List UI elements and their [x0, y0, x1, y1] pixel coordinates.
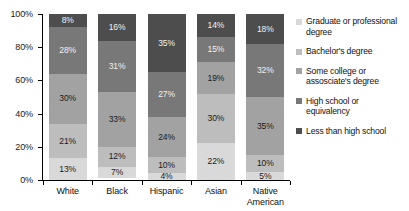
bar-segment-value: 10% — [257, 159, 274, 168]
y-tick-label: 60% — [15, 75, 33, 85]
y-tick-mark — [38, 14, 43, 15]
bar-segment-value: 32% — [257, 66, 274, 75]
x-tick-mark — [43, 181, 44, 185]
bar-segment-value: 12% — [109, 152, 126, 161]
plot-area: 0%20%40%60%80%100% 8%28%30%21%13%16%31%3… — [0, 0, 292, 211]
legend-swatch-icon — [296, 68, 302, 74]
y-tick-label: 80% — [15, 42, 33, 52]
legend-label: Some college orassosciate's degree — [306, 66, 379, 87]
bar-segment-value: 8% — [62, 16, 74, 25]
bar-segment-value: 10% — [158, 161, 175, 170]
legend-label: Graduate or professionaldegree — [306, 16, 397, 37]
bar-segment[interactable]: 14% — [197, 14, 235, 37]
x-axis-label: Asian — [191, 186, 240, 197]
bar-segment-value: 18% — [257, 25, 274, 34]
y-tick-mark — [38, 80, 43, 81]
bar-group[interactable]: 35%27%24%10%4% — [148, 14, 186, 180]
bar-segment-value: 14% — [208, 21, 225, 30]
bar-segment[interactable]: 13% — [49, 158, 87, 180]
bar-segment-value: 13% — [59, 165, 76, 174]
bar-group[interactable]: 18%32%35%10%5% — [246, 14, 284, 180]
legend-item[interactable]: Graduate or professionaldegree — [296, 16, 409, 37]
bar-segment[interactable]: 35% — [148, 14, 186, 72]
bar-segment[interactable]: 27% — [148, 72, 186, 117]
bar-group[interactable]: 14%15%19%30%22% — [197, 14, 235, 180]
bar-group[interactable]: 8%28%30%21%13% — [49, 14, 87, 180]
legend-label: Bachelor's degree — [306, 46, 372, 57]
bar-segment[interactable]: 10% — [246, 155, 284, 172]
x-axis-line — [42, 180, 290, 181]
bar-segment-value: 27% — [158, 90, 175, 99]
legend-item[interactable]: Some college orassosciate's degree — [296, 66, 409, 87]
x-tick-mark — [241, 181, 242, 185]
stacked-bar-chart: 0%20%40%60%80%100% 8%28%30%21%13%16%31%3… — [0, 0, 409, 211]
y-tick-label: 0% — [20, 175, 33, 185]
legend-swatch-icon — [296, 19, 302, 25]
legend-swatch-icon — [296, 128, 302, 134]
bar-segment[interactable]: 12% — [98, 147, 136, 167]
bar-segment-value: 30% — [59, 94, 76, 103]
bar-segment[interactable]: 28% — [49, 27, 87, 73]
bar-segment[interactable]: 24% — [148, 117, 186, 157]
y-tick-mark — [38, 147, 43, 148]
bar-segment[interactable]: 5% — [246, 172, 284, 180]
legend-item[interactable]: Bachelor's degree — [296, 46, 409, 57]
bar-segment-value: 4% — [160, 173, 172, 180]
y-tick-label: 20% — [15, 142, 33, 152]
x-tick-mark — [290, 181, 291, 185]
x-axis-label: White — [43, 186, 92, 197]
bar-segment[interactable]: 31% — [98, 41, 136, 92]
bar-segment[interactable]: 18% — [246, 14, 284, 44]
y-axis: 0%20%40%60%80%100% — [0, 14, 33, 180]
x-tick-mark — [191, 181, 192, 185]
x-axis-label: Black — [92, 186, 141, 197]
legend-item[interactable]: Less than high school — [296, 126, 409, 137]
chart-legend: Graduate or professionaldegreeBachelor's… — [296, 16, 409, 145]
bar-segment[interactable]: 15% — [197, 37, 235, 62]
bar-segment[interactable]: 4% — [148, 173, 186, 180]
y-tick-label: 100% — [10, 9, 33, 19]
bar-segment-value: 30% — [208, 114, 225, 123]
bar-segment-value: 35% — [158, 39, 175, 48]
bar-segment[interactable]: 35% — [246, 97, 284, 155]
bar-segment-value: 15% — [208, 45, 225, 54]
bar-segment[interactable]: 16% — [98, 14, 136, 41]
bar-segment[interactable]: 8% — [49, 14, 87, 27]
legend-label: Less than high school — [306, 126, 386, 137]
y-tick-mark — [38, 47, 43, 48]
bar-group[interactable]: 16%31%33%12%7% — [98, 14, 136, 180]
bar-segment-value: 16% — [109, 23, 126, 32]
bar-segment[interactable]: 19% — [197, 62, 235, 94]
bar-segment[interactable]: 30% — [197, 94, 235, 144]
bar-segment[interactable]: 22% — [197, 143, 235, 180]
bar-segment-value: 33% — [109, 115, 126, 124]
legend-swatch-icon — [296, 98, 302, 104]
y-tick-label: 40% — [15, 109, 33, 119]
bar-segment-value: 28% — [59, 46, 76, 55]
bar-segment[interactable]: 10% — [148, 157, 186, 174]
y-tick-mark — [38, 114, 43, 115]
bar-segment[interactable]: 33% — [98, 92, 136, 147]
bar-segment-value: 31% — [109, 62, 126, 71]
bar-segment[interactable]: 7% — [98, 167, 136, 179]
bars-container: 8%28%30%21%13%16%31%33%12%7%35%27%24%10%… — [43, 14, 290, 180]
legend-label: High school orequivalency — [306, 96, 359, 117]
legend-swatch-icon — [296, 49, 302, 55]
bar-segment[interactable]: 32% — [246, 44, 284, 97]
bar-segment-value: 35% — [257, 122, 274, 131]
bar-segment-value: 19% — [208, 74, 225, 83]
bar-segment-value: 22% — [208, 157, 225, 166]
legend-item[interactable]: High school orequivalency — [296, 96, 409, 117]
bar-segment[interactable]: 30% — [49, 74, 87, 124]
x-axis-label: NativeAmerican — [241, 186, 290, 208]
x-tick-mark — [142, 181, 143, 185]
x-tick-mark — [92, 181, 93, 185]
bar-segment-value: 24% — [158, 133, 175, 142]
bar-segment-value: 5% — [259, 172, 271, 180]
bar-segment[interactable]: 21% — [49, 124, 87, 159]
bar-segment-value: 21% — [59, 137, 76, 146]
bar-segment-value: 7% — [111, 168, 123, 177]
x-axis-label: Hispanic — [142, 186, 191, 197]
x-axis-labels: WhiteBlackHispanicAsianNativeAmerican — [43, 186, 290, 211]
